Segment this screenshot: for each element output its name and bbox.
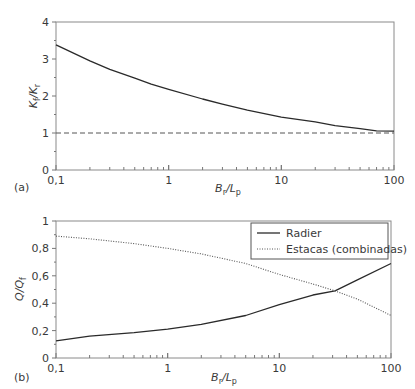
x-tick-label: 100 (381, 362, 402, 375)
y-tick-label: 1 (42, 215, 49, 228)
series-line-radier (56, 264, 391, 341)
x-tick-label: 10 (274, 174, 288, 187)
axis-ticks-a (52, 22, 394, 170)
y-tick-label: 2 (42, 90, 49, 103)
y-tick-label: 0,2 (32, 325, 50, 338)
series-line-kf-kr (56, 45, 394, 131)
x-tick-label: 0,1 (47, 174, 65, 187)
x-tick-label: 10 (272, 362, 286, 375)
y-axis-label-a: Kf/Kr (27, 83, 42, 108)
panel-label-a: (a) (14, 181, 29, 194)
y-tick-label: 0,8 (32, 242, 50, 255)
legend-label-radier: Radier (286, 227, 322, 240)
x-tick-label: 0,1 (47, 362, 65, 375)
y-tick-label: 1 (42, 127, 49, 140)
series-a (56, 45, 394, 133)
legend: Radier Estacas (combinadas) (251, 223, 407, 259)
figure: 01234 0,1110100 Kf/Kr Br/Lp (a) 00,20,40… (0, 0, 415, 389)
y-tick-labels-a: 01234 (42, 16, 49, 177)
y-tick-label: 3 (42, 53, 49, 66)
y-tick-label: 4 (42, 16, 49, 29)
chart-panel-a: 01234 0,1110100 Kf/Kr Br/Lp (a) (14, 16, 405, 197)
y-tick-label: 0,6 (32, 270, 50, 283)
x-tick-label: 1 (164, 362, 171, 375)
y-tick-labels-b: 00,20,40,60,81 (32, 215, 50, 365)
chart-panel-b: 00,20,40,60,81 0,1110100 Q/Qf Br/Lp (b) … (13, 215, 407, 386)
y-tick-label: 0,4 (32, 297, 50, 310)
x-axis-label-a: Br/Lp (215, 182, 241, 197)
panel-label-b: (b) (14, 371, 30, 384)
legend-label-estacas: Estacas (combinadas) (286, 243, 407, 256)
plot-frame-a (56, 22, 394, 170)
y-axis-label-b: Q/Qf (13, 277, 28, 301)
x-axis-label-b: Br/Lp (211, 371, 237, 386)
x-tick-label: 1 (165, 174, 172, 187)
x-tick-label: 100 (384, 174, 405, 187)
